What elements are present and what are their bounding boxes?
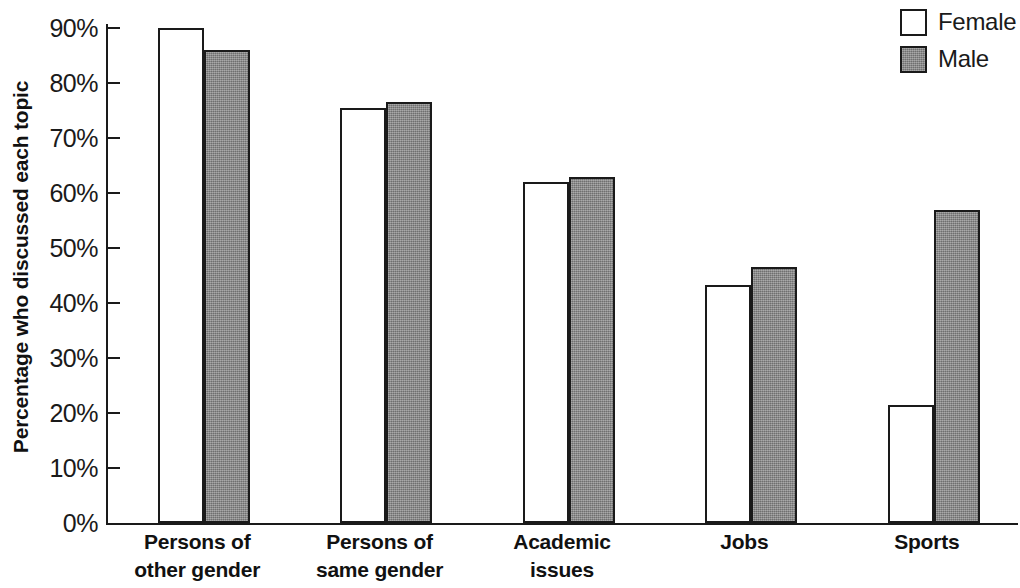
x-axis-label-line: same gender — [288, 556, 470, 584]
bar-female-5 — [888, 405, 934, 523]
bar-female-3 — [523, 182, 569, 523]
plot-area — [106, 28, 1018, 523]
legend-swatch-female-icon — [900, 9, 927, 36]
y-axis-tick-label: 0% — [30, 511, 98, 536]
y-axis-tick-label: 10% — [30, 456, 98, 481]
bar-male-5 — [934, 210, 980, 524]
bar-chart: Percentage who discussed each topic 90%8… — [0, 0, 1020, 588]
bar-male-4 — [751, 267, 797, 523]
y-axis-tick-label: 60% — [30, 181, 98, 206]
x-axis-label-line: Sports — [836, 528, 1018, 556]
legend-label: Female — [938, 10, 1016, 34]
legend-label: Male — [938, 47, 989, 71]
y-axis-tick-label: 70% — [30, 126, 98, 151]
y-axis-tick-label: 30% — [30, 346, 98, 371]
bar-male-2 — [386, 102, 432, 523]
y-axis-tick-label: 80% — [30, 71, 98, 96]
y-axis-tick-label: 50% — [30, 236, 98, 261]
x-axis-category-labels: Persons ofother genderPersons ofsame gen… — [106, 528, 1018, 588]
bar-male-1 — [204, 50, 250, 523]
y-axis-tick-labels: 90%80%70%60%50%40%30%20%10%0% — [30, 0, 98, 588]
legend-item-female[interactable]: Female — [900, 5, 1020, 39]
x-axis-label-3: Academicissues — [471, 528, 653, 584]
x-axis-label-2: Persons ofsame gender — [288, 528, 470, 584]
bar-male-3 — [569, 177, 615, 524]
x-axis-label-line: Persons of — [106, 528, 288, 556]
legend-item-male[interactable]: Male — [900, 42, 1020, 76]
y-axis-tick-label: 40% — [30, 291, 98, 316]
bar-female-1 — [158, 28, 204, 523]
x-axis-label-line: issues — [471, 556, 653, 584]
bars-layer — [106, 28, 1018, 523]
x-axis-label-line: Academic — [471, 528, 653, 556]
x-axis-line — [106, 523, 1018, 525]
bar-female-4 — [705, 285, 751, 523]
x-axis-label-line: Persons of — [288, 528, 470, 556]
x-axis-label-5: Sports — [836, 528, 1018, 556]
y-axis-tick-label: 90% — [30, 16, 98, 41]
x-axis-label-line: other gender — [106, 556, 288, 584]
legend: FemaleMale — [900, 5, 1020, 79]
x-axis-label-4: Jobs — [653, 528, 835, 556]
legend-swatch-male-icon — [900, 46, 927, 73]
bar-female-2 — [340, 108, 386, 523]
y-axis-tick-label: 20% — [30, 401, 98, 426]
x-axis-label-1: Persons ofother gender — [106, 528, 288, 584]
x-axis-label-line: Jobs — [653, 528, 835, 556]
